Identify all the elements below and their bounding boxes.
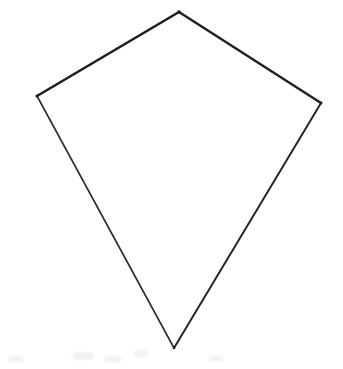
- vertex-marker-apex-top: [177, 10, 180, 13]
- vertex-marker-left: [36, 95, 39, 98]
- drawing-canvas: [0, 0, 343, 369]
- kite-figure: [0, 0, 343, 369]
- vertex-marker-apex-bottom: [173, 347, 176, 350]
- vertex-marker-right: [320, 102, 323, 105]
